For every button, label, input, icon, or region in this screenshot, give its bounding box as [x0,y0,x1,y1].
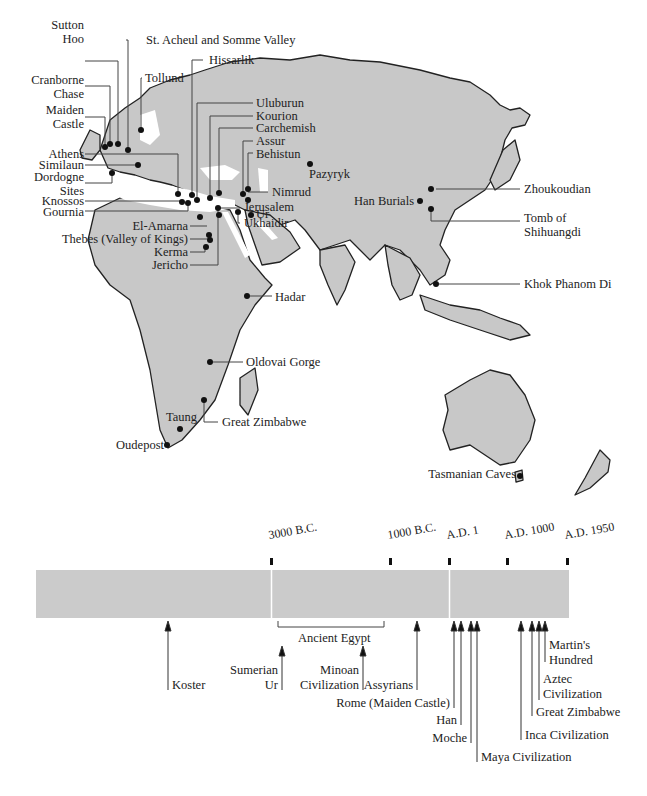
label-hadar: Hadar [275,290,306,304]
label-behistun: Behistun [256,147,300,161]
label-ukhaidir: Ukhaidir [244,216,288,230]
event-maya: Maya Civilization [481,750,572,765]
label-tollund: Tollund [145,71,184,85]
leader-lines [0,0,647,500]
label-el-amarna: El-Amarna [100,219,188,233]
label-uluburun: Uluburun [256,96,304,110]
site-dot-carchemish[interactable] [216,190,222,196]
timeline-bar [36,570,569,618]
site-dot-kourion[interactable] [207,195,213,201]
label-hissarlik: Hissarlik [209,53,254,67]
event-martins-hundred: Martin's Hundred [549,638,593,668]
site-dot-oldovai[interactable] [207,359,213,365]
site-dot-tollund[interactable] [138,127,144,133]
site-dot-similaun[interactable] [135,162,141,168]
event-han: Han [420,713,457,728]
tick-ad1000 [506,558,509,565]
label-gournia: Gournia [20,205,84,219]
event-great-zimbabwe: Great Zimbabwe [536,705,620,720]
label-shihuangdi: Tomb of Shihuangdi [524,211,581,239]
site-dot-dordogne[interactable] [109,170,115,176]
site-dot-behistun[interactable] [245,186,251,192]
label-thebes: Thebes (Valley of Kings) [40,232,188,246]
site-dot-zhoukoudian[interactable] [428,186,434,192]
site-dot-jericho[interactable] [216,212,222,218]
label-nimrud: Nimrud [272,185,311,199]
site-dot-athens[interactable] [175,191,181,197]
event-sumerian-ur: Sumerian Ur [228,663,278,693]
site-dot-thebes-2[interactable] [207,237,213,243]
site-dot-uluburun[interactable] [194,197,200,203]
event-ancient-egypt: Ancient Egypt [298,631,371,646]
tick-3000bc [270,558,273,565]
label-oldovai: Oldovai Gorge [246,355,320,369]
event-koster: Koster [172,678,205,693]
site-dot-ukhaidir[interactable] [235,209,241,215]
label-carchemish: Carchemish [256,121,316,135]
tick-ad1 [448,558,451,565]
site-dot-tasmanian-caves[interactable] [517,473,523,479]
tick-1000bc [389,558,392,565]
site-dot-oudepost[interactable] [164,442,170,448]
site-dot-st-acheul[interactable] [125,147,131,153]
label-han-burials: Han Burials [340,194,414,208]
label-khok-phanom-di: Khok Phanom Di [524,277,612,291]
label-kerma: Kerma [100,245,188,259]
label-oudepost: Oudepost [100,438,164,452]
event-assyrians: Assyrians [348,678,413,693]
event-inca: Inca Civilization [525,728,609,743]
site-dot-khok-phanom-di[interactable] [433,281,439,287]
site-dot-jerusalem[interactable] [215,205,221,211]
site-dot-taung[interactable] [177,426,183,432]
site-dot-kerma[interactable] [203,244,209,250]
event-moche: Moche [420,731,467,746]
label-sutton-hoo: Sutton Hoo [40,18,84,46]
site-dot-hadar[interactable] [244,293,250,299]
label-taung: Taung [166,410,197,424]
site-dot-gournia[interactable] [185,200,191,206]
label-tasmanian-caves: Tasmanian Caves [410,467,516,481]
label-great-zimbabwe: Great Zimbabwe [222,415,306,429]
site-dot-han-burials[interactable] [417,198,423,204]
world-map: Sutton Hoo St. Acheul and Somme Valley H… [0,0,647,500]
event-rome: Rome (Maiden Castle) [320,696,450,711]
timeline: 3000 B.C. 1000 B.C. A.D. 1 A.D. 1000 A.D… [0,500,647,796]
label-cranborne: Cranborne Chase [24,73,84,101]
label-jericho: Jericho [100,258,188,272]
label-pazyryk: Pazyryk [309,167,350,181]
label-maiden-castle: Maiden Castle [30,103,84,131]
event-aztec: Aztec Civilization [543,672,602,702]
site-dot-el-amarna[interactable] [197,214,203,220]
site-dot-assur[interactable] [240,191,246,197]
tick-ad1950 [566,558,569,565]
site-dot-shihuangdi[interactable] [428,206,434,212]
site-dot-great-zimbabwe[interactable] [201,397,207,403]
label-st-acheul: St. Acheul and Somme Valley [146,33,295,47]
ancient-egypt-bracket [278,621,384,627]
label-zhoukoudian: Zhoukoudian [524,182,591,196]
site-dot-sutton-hoo[interactable] [115,141,121,147]
label-assur: Assur [256,134,285,148]
site-dot-maiden-castle[interactable] [102,144,108,150]
